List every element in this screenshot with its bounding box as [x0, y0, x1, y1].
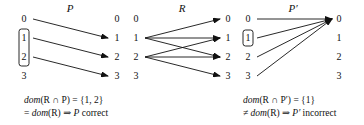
node-label: 0	[246, 13, 251, 24]
caption-line: = dom(R) ⇒ P correct	[24, 107, 108, 120]
edge-arrow	[257, 19, 332, 76]
node-label: 0	[22, 13, 27, 24]
caption-line: dom(R ∩ P) = {1, 2}	[24, 94, 108, 107]
node-label: 2	[226, 51, 231, 62]
dom-function: dom	[243, 95, 259, 105]
caption-text: ≠	[243, 108, 251, 118]
node-label: 3	[115, 70, 120, 81]
verdict-text: correct	[79, 108, 108, 118]
right-column: 0 1 2 3	[115, 13, 120, 81]
edges	[257, 19, 332, 76]
node-label: 2	[134, 51, 139, 62]
node-label: 1	[22, 32, 27, 43]
edge-arrow	[33, 38, 108, 57]
node-label: 3	[134, 70, 139, 81]
caption-right: dom(R ∩ P′) = {1} ≠ dom(R) ⇒ P′ incorrec…	[243, 94, 336, 120]
diagram-p: P 0 1 2 3 0 1 2 3	[19, 2, 120, 81]
node-label: 3	[246, 70, 251, 81]
edge-arrow	[257, 19, 332, 57]
edge-arrow	[33, 57, 108, 76]
node-label: 1	[115, 32, 120, 43]
edge-arrow	[145, 19, 220, 38]
caption-left: dom(R ∩ P) = {1, 2} = dom(R) ⇒ P correct	[24, 94, 108, 120]
diagram-title: P′	[287, 2, 298, 14]
edge-arrow	[257, 19, 332, 38]
node-label: 0	[226, 13, 231, 24]
dom-function: dom	[24, 95, 40, 105]
diagram-title: R	[178, 2, 186, 14]
diagram-p-prime: P′ 0 1 2 3 0 1 2 3	[243, 2, 342, 81]
caption-line: ≠ dom(R) ⇒ P′ incorrect	[243, 107, 336, 120]
caption-text: (R) ⇒	[48, 108, 73, 118]
caption-text: =	[24, 108, 32, 118]
caption-text: (R ∩ P) = {1, 2}	[40, 95, 103, 105]
node-label: 2	[246, 51, 251, 62]
caption-text: (R ∩ P′) = {1}	[259, 95, 315, 105]
edges	[145, 19, 220, 76]
diagram-title: P	[66, 2, 74, 14]
edge-arrow	[33, 19, 108, 38]
dom-function: dom	[32, 108, 48, 118]
node-label: 1	[337, 32, 342, 43]
diagram-r: R 0 1 2 3 0 1 2 3	[134, 2, 231, 81]
node-label: 3	[226, 70, 231, 81]
left-column: 0 1 2 3	[134, 13, 139, 81]
left-column: 0 1 2 3	[246, 13, 251, 81]
edge-arrow	[145, 57, 220, 76]
node-label: 0	[115, 13, 120, 24]
right-column: 0 1 2 3	[337, 13, 342, 81]
caption-line: dom(R ∩ P′) = {1}	[243, 94, 336, 107]
dom-function: dom	[251, 108, 267, 118]
left-column: 0 1 2 3	[22, 13, 27, 81]
node-label: 3	[337, 70, 342, 81]
node-label: 0	[134, 13, 139, 24]
node-label: 1	[246, 32, 251, 43]
verdict-text: incorrect	[300, 108, 336, 118]
node-label: 3	[22, 70, 27, 81]
node-label: 2	[337, 51, 342, 62]
caption-text: (R) ⇒	[267, 108, 292, 118]
node-label: 1	[226, 32, 231, 43]
node-label: 2	[115, 51, 120, 62]
edges	[33, 19, 108, 76]
node-label: 2	[22, 51, 27, 62]
node-label: 1	[134, 32, 139, 43]
node-label: 0	[337, 13, 342, 24]
right-column: 0 1 2 3	[226, 13, 231, 81]
